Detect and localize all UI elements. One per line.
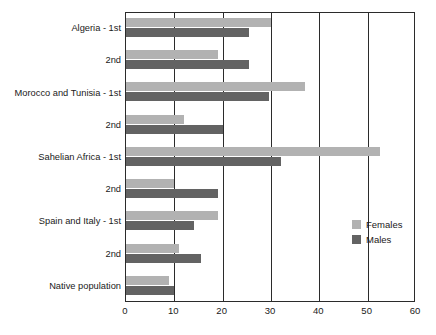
x-axis-tick-label: 40 (298, 305, 338, 317)
bar-males (126, 125, 223, 134)
plot-area (125, 12, 415, 302)
bar-group (126, 271, 414, 303)
bar-males (126, 92, 269, 101)
bar-group (126, 13, 414, 45)
x-axis-tick-label: 30 (250, 305, 290, 317)
chart-legend: FemalesMales (352, 218, 424, 248)
bar-males (126, 286, 174, 295)
y-axis-label: 2nd (0, 55, 121, 65)
legend-item: Males (352, 233, 424, 246)
y-axis-label: Spain and Italy - 1st (0, 216, 121, 226)
x-axis-tick-label: 60 (395, 305, 435, 317)
bar-group (126, 174, 414, 206)
legend-swatch-male (352, 235, 361, 244)
y-axis-label: Morocco and Tunisia - 1st (0, 88, 121, 98)
bar-group (126, 77, 414, 109)
legend-item: Females (352, 218, 424, 231)
bar-females (126, 50, 218, 59)
bar-males (126, 221, 194, 230)
bar-males (126, 60, 249, 69)
bar-females (126, 276, 169, 285)
x-axis-tick-labels: 0102030405060 (0, 305, 436, 321)
y-axis-label: 2nd (0, 184, 121, 194)
bar-females (126, 18, 271, 27)
legend-label: Females (366, 219, 402, 230)
bar-females (126, 211, 218, 220)
bar-group (126, 142, 414, 174)
bar-males (126, 254, 201, 263)
y-axis-label: Native population (0, 281, 121, 291)
x-axis-tick-label: 0 (105, 305, 145, 317)
x-axis-tick-label: 10 (153, 305, 193, 317)
bar-females (126, 244, 179, 253)
bar-group (126, 45, 414, 77)
scan-artifact (0, 322, 436, 335)
y-axis-label: Algeria - 1st (0, 23, 121, 33)
legend-label: Males (366, 234, 391, 245)
bar-males (126, 28, 249, 37)
y-axis-label: 2nd (0, 120, 121, 130)
x-axis-tick-label: 20 (202, 305, 242, 317)
y-axis-label: 2nd (0, 249, 121, 259)
legend-swatch-female (352, 220, 361, 229)
bar-males (126, 189, 218, 198)
bar-males (126, 157, 281, 166)
bar-females (126, 147, 380, 156)
bar-females (126, 179, 174, 188)
bar-rows (126, 13, 414, 301)
x-axis-tick-label: 50 (347, 305, 387, 317)
y-axis-labels: Algeria - 1st2ndMorocco and Tunisia - 1s… (0, 12, 121, 302)
y-axis-label: Sahelian Africa - 1st (0, 152, 121, 162)
bar-chart: Algeria - 1st2ndMorocco and Tunisia - 1s… (0, 0, 436, 335)
bar-group (126, 110, 414, 142)
bar-females (126, 115, 184, 124)
bar-females (126, 82, 305, 91)
